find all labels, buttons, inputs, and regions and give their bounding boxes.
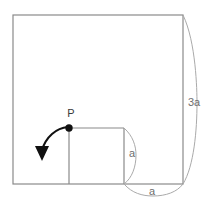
outer-square <box>13 15 183 184</box>
point-P-marker <box>65 124 72 131</box>
point-P-label: P <box>67 107 74 119</box>
rotation-arrow-head <box>35 146 49 161</box>
dimension-label-a-vertical: a <box>129 147 136 159</box>
dimension-label-a-horizontal: a <box>149 185 156 197</box>
geometry-figure: P 3a a a <box>0 0 213 209</box>
dimension-label-3a: 3a <box>188 96 201 108</box>
figure-canvas: P 3a a a <box>0 0 213 209</box>
